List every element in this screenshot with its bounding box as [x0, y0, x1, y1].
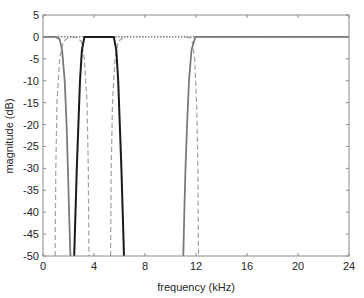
y-axis-label: magnitude (dB) — [3, 98, 15, 173]
y-tick-label: -10 — [23, 75, 39, 87]
y-tick-label: -50 — [23, 250, 39, 262]
y-tick-label: -25 — [23, 140, 39, 152]
plot-area — [43, 37, 349, 256]
series-line — [111, 37, 128, 256]
series-line — [74, 37, 124, 256]
y-tick-label: 0 — [33, 31, 39, 43]
y-tick-label: -30 — [23, 162, 39, 174]
y-tick-label: -40 — [23, 206, 39, 218]
series-line — [43, 37, 70, 256]
axes-frame — [43, 15, 349, 256]
magnitude-response-chart: 0481216202450-5-10-15-20-25-30-35-40-45-… — [0, 0, 364, 298]
x-tick-label: 4 — [91, 260, 97, 272]
axes: 0481216202450-5-10-15-20-25-30-35-40-45-… — [23, 9, 355, 272]
x-tick-label: 20 — [292, 260, 304, 272]
series-line — [183, 37, 349, 256]
y-tick-label: -20 — [23, 119, 39, 131]
x-tick-label: 0 — [40, 260, 46, 272]
x-tick-label: 16 — [241, 260, 253, 272]
x-tick-label: 8 — [142, 260, 148, 272]
y-tick-label: 5 — [33, 9, 39, 21]
x-tick-label: 12 — [190, 260, 202, 272]
y-tick-label: -35 — [23, 184, 39, 196]
y-tick-label: -5 — [29, 53, 39, 65]
x-tick-label: 24 — [343, 260, 355, 272]
series-line — [186, 37, 199, 256]
x-axis-label: frequency (kHz) — [157, 281, 235, 293]
y-tick-label: -15 — [23, 97, 39, 109]
y-tick-label: -45 — [23, 228, 39, 240]
